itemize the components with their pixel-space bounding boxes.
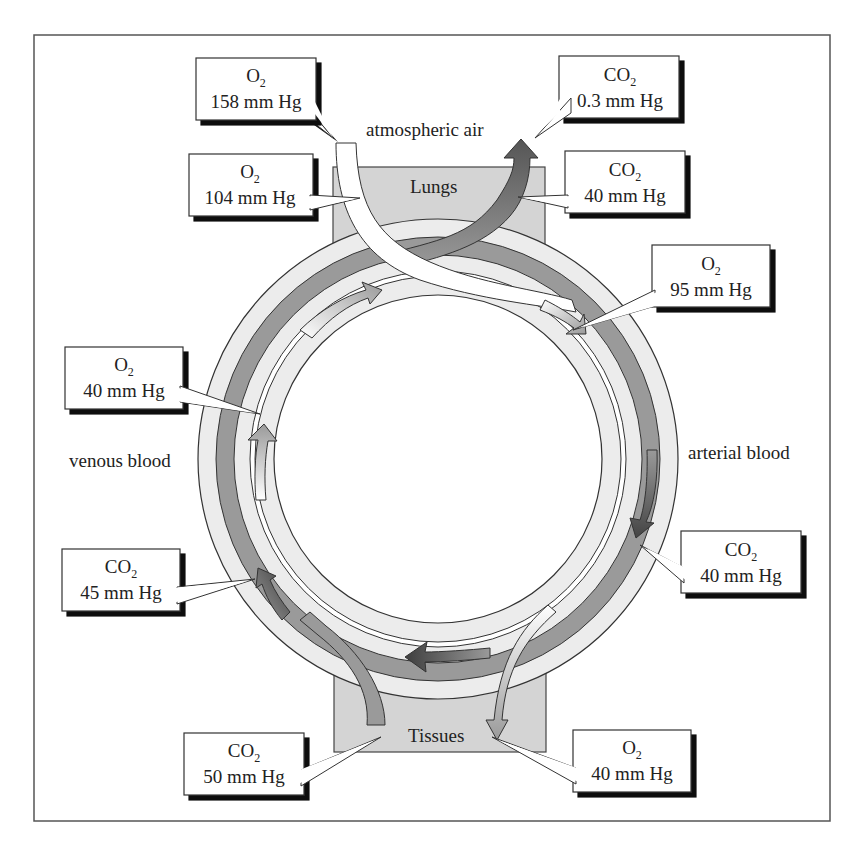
arterial-blood-label: arterial blood	[688, 442, 790, 463]
gas-exchange-diagram: atmospheric air Lungs Tissues venous blo…	[0, 0, 845, 856]
tissues-label: Tissues	[408, 725, 464, 746]
svg-text:40 mm Hg: 40 mm Hg	[83, 380, 165, 401]
atmospheric-air-label: atmospheric air	[366, 119, 484, 140]
svg-text:40 mm Hg: 40 mm Hg	[700, 565, 782, 586]
svg-text:95 mm Hg: 95 mm Hg	[670, 279, 752, 300]
svg-text:50 mm Hg: 50 mm Hg	[203, 766, 285, 787]
lungs-label: Lungs	[410, 176, 458, 197]
gas-formula: O	[246, 65, 260, 86]
venous-blood-label: venous blood	[69, 450, 171, 471]
circulation-ring	[198, 219, 678, 699]
svg-text:45 mm Hg: 45 mm Hg	[80, 582, 162, 603]
svg-text:104 mm Hg: 104 mm Hg	[205, 187, 296, 208]
svg-text:0.3 mm Hg: 0.3 mm Hg	[577, 90, 664, 111]
svg-text:40 mm Hg: 40 mm Hg	[591, 763, 673, 784]
svg-text:40 mm Hg: 40 mm Hg	[584, 185, 666, 206]
pressure-value: 158 mm Hg	[211, 91, 302, 112]
